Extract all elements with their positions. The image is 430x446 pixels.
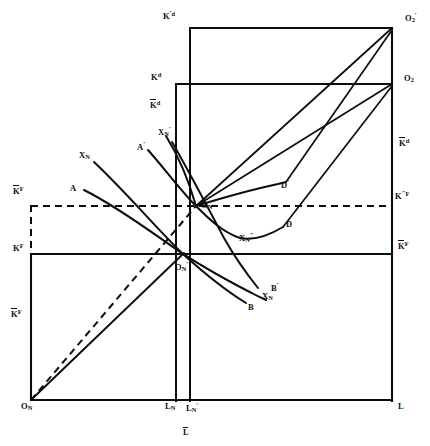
- label-xn-dprime-curve: XN″: [239, 232, 254, 243]
- label-xn-curve: XN: [79, 151, 90, 161]
- diagram-vector-layer: [0, 0, 430, 446]
- label-d-curve: D: [286, 220, 292, 229]
- label-a-curve: A: [70, 184, 76, 193]
- ray-o2-to-on-dprime: [196, 84, 392, 206]
- label-on-origin: ON: [21, 402, 32, 412]
- label-lbar-bottom-center: L: [183, 428, 189, 437]
- curve-xnprime-to-dprime: [166, 136, 196, 206]
- label-ln-prime-bottom: LN′: [186, 402, 198, 413]
- label-l-bottom-right: L: [398, 402, 404, 411]
- label-on-dprime: ON″: [201, 199, 216, 210]
- label-k-dprime-f-right: K″F: [395, 190, 409, 200]
- label-kprime-d-top-left: K′d: [163, 10, 175, 20]
- ray-o2prime-to-on-dprime: [196, 28, 392, 206]
- label-on-prime: ON′: [175, 261, 188, 272]
- label-o2-prime-top-right: O2′: [405, 12, 417, 23]
- label-ln-bottom: LN: [165, 402, 175, 412]
- label-kd-left: Kd: [151, 72, 161, 81]
- label-b-prime-curve: B′: [271, 282, 279, 292]
- label-kbar-f-right: KF: [398, 241, 409, 250]
- label-kf-left: KF: [13, 243, 24, 252]
- curve-xn-to-b: [94, 162, 246, 303]
- label-a-prime-curve: A′: [137, 141, 145, 151]
- label-kbar-d-right: Kd: [399, 138, 409, 147]
- dashed-ray-on-to-on-dprime: [31, 206, 196, 400]
- label-b-curve: B: [248, 303, 254, 312]
- label-xn-prime-curve: XN′: [158, 126, 171, 137]
- label-kbar-f-lower-left: KF: [11, 309, 22, 318]
- label-kbar-f-upper-left: KF: [13, 186, 24, 195]
- ray-on-to-crossing: [31, 253, 184, 400]
- diagram-canvas: K′d O2′ Kd O2 Kd Kd XN′ A′ XN A KF K″F D…: [0, 0, 430, 446]
- label-d-prime-curve: D′: [281, 179, 289, 189]
- label-xn-prime2-curve: XN: [262, 292, 273, 302]
- label-o2-right: O2: [404, 74, 414, 84]
- label-kbar-d-left: Kd: [150, 100, 160, 109]
